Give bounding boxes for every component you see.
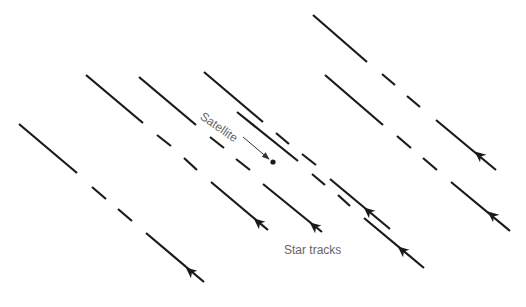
direction-arrow-icon [310, 223, 322, 234]
track-solid-segment [313, 15, 367, 62]
star-track-diagram [0, 0, 526, 307]
track-dash-segment [157, 135, 171, 146]
direction-arrows-group [186, 151, 500, 278]
track-solid-segment [451, 182, 510, 231]
track-dash-segment [276, 133, 289, 144]
satellite-pointer-arrow [243, 137, 269, 159]
track-solid-segment [364, 218, 424, 268]
star-track-f [325, 75, 510, 231]
track-dash-segment [407, 96, 420, 107]
star-track-d [204, 72, 390, 229]
track-solid-segment [19, 124, 77, 173]
track-dash-segment [210, 137, 224, 148]
star-tracks-group [19, 15, 510, 282]
track-dash-segment [236, 159, 250, 170]
track-solid-segment [146, 233, 204, 282]
star-track-e [313, 15, 496, 170]
star-track-b [86, 75, 268, 230]
track-solid-segment [325, 75, 383, 125]
star-track-a [19, 124, 204, 282]
track-dash-segment [92, 187, 106, 199]
track-dash-segment [423, 158, 437, 170]
satellite-track [237, 112, 298, 161]
star-track-c [139, 77, 322, 232]
direction-arrow-icon [186, 267, 198, 278]
track-solid-segment [436, 120, 496, 170]
track-solid-segment [86, 75, 143, 123]
track-dash-segment [397, 136, 411, 148]
track-dash-segment [118, 209, 132, 221]
track-solid-segment [330, 179, 390, 229]
track-dash-segment [302, 154, 316, 165]
satellite-dot-icon [270, 159, 275, 164]
satellite-group [237, 112, 298, 165]
track-dash-segment [312, 174, 325, 185]
track-dash-segment [184, 158, 197, 170]
track-solid-segment [139, 77, 196, 125]
star-tracks-label: Star tracks [284, 244, 341, 256]
track-dash-segment [338, 195, 350, 206]
track-dash-segment [382, 74, 395, 85]
